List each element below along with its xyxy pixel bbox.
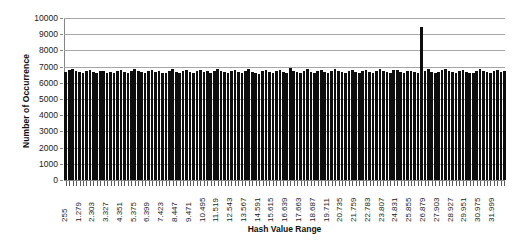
x-axis-tick-label: 14.591	[253, 198, 262, 222]
x-axis-tick-label: 3.327	[101, 202, 110, 222]
bar	[403, 73, 406, 180]
bar	[292, 71, 295, 180]
bar	[448, 71, 451, 180]
bar	[413, 72, 416, 180]
bar	[171, 69, 174, 180]
bar	[437, 72, 440, 180]
bar	[165, 73, 168, 180]
bar	[258, 74, 261, 180]
bar	[279, 70, 282, 180]
bar	[209, 73, 212, 180]
bar	[213, 71, 216, 181]
plot-area	[64, 18, 505, 180]
bar	[241, 73, 244, 180]
bar	[313, 73, 316, 180]
bar	[444, 69, 447, 180]
x-axis-tick-label: 22.783	[363, 198, 372, 222]
bar	[310, 72, 313, 180]
bar	[64, 72, 67, 180]
bar	[144, 73, 147, 180]
bar	[427, 69, 430, 180]
bar	[268, 72, 271, 180]
bar	[417, 73, 420, 180]
bar	[451, 72, 454, 180]
bar	[272, 73, 275, 180]
bar	[168, 71, 171, 181]
bar	[89, 70, 92, 180]
bar	[475, 71, 478, 181]
y-axis-tick-label: 7000	[0, 62, 58, 72]
bar	[130, 71, 133, 180]
bar	[227, 73, 230, 180]
x-axis-tick-label: 26.879	[418, 198, 427, 222]
x-axis-tick-label: 6.399	[142, 202, 151, 222]
bar	[261, 71, 264, 180]
bar	[482, 71, 485, 180]
x-axis-tick-label: 9.471	[184, 202, 193, 222]
bar	[375, 71, 378, 180]
bar	[285, 73, 288, 180]
bar	[175, 72, 178, 180]
bar	[254, 73, 257, 180]
bar	[230, 71, 233, 180]
bar	[199, 70, 202, 180]
x-axis-tick-label: 18.687	[308, 198, 317, 222]
bar	[185, 70, 188, 180]
y-axis-tick-label: 8000	[0, 45, 58, 55]
bar	[354, 72, 357, 180]
y-axis-tick-mark	[60, 67, 63, 68]
bar	[327, 73, 330, 180]
bar	[265, 70, 268, 180]
bar	[323, 72, 326, 180]
bar	[465, 72, 468, 180]
bar	[306, 69, 309, 180]
x-axis-tick-label: 1.279	[74, 202, 83, 222]
bar	[196, 71, 199, 180]
bar	[344, 73, 347, 180]
bar	[189, 72, 192, 180]
bar	[334, 69, 337, 180]
x-axis-tick-label: 23.807	[377, 198, 386, 222]
bar	[102, 71, 105, 181]
bar	[95, 73, 98, 180]
bar	[223, 72, 226, 180]
x-axis-tick-label: 31.999	[487, 198, 496, 222]
bar-series	[64, 18, 505, 180]
bar	[406, 71, 409, 180]
bar	[154, 72, 157, 180]
bar	[299, 73, 302, 180]
bar	[192, 73, 195, 180]
bar-chart: Number of Occurrence 0100020003000400050…	[0, 0, 513, 241]
bar	[71, 69, 74, 180]
bar	[140, 72, 143, 180]
bar	[247, 69, 250, 180]
x-axis-tick-label: 255	[60, 209, 69, 222]
y-axis-tick-label: 0	[0, 175, 58, 185]
bar	[365, 70, 368, 180]
bar	[441, 70, 444, 180]
bar	[396, 70, 399, 180]
bar	[216, 69, 219, 180]
y-axis-tick-mark	[60, 148, 63, 149]
bar	[410, 71, 413, 180]
y-axis-tick-mark	[60, 99, 63, 100]
bar	[151, 70, 154, 180]
bar	[275, 71, 278, 180]
y-axis-tick-mark	[60, 115, 63, 116]
bar	[496, 70, 499, 180]
bar	[399, 72, 402, 180]
bar	[389, 73, 392, 180]
bar	[455, 73, 458, 180]
bar	[341, 72, 344, 180]
bar	[358, 73, 361, 180]
bar	[348, 71, 351, 181]
bar	[99, 71, 102, 180]
bar	[82, 73, 85, 180]
bar	[434, 73, 437, 180]
bar	[479, 69, 482, 180]
bar	[386, 72, 389, 180]
bar	[379, 69, 382, 180]
x-axis-tick-label: 27.903	[432, 198, 441, 222]
bar	[251, 72, 254, 180]
y-axis-tick-label: 6000	[0, 78, 58, 88]
